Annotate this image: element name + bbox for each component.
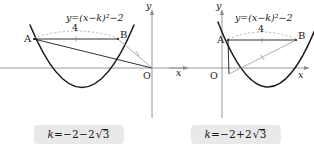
caption-value: −2+2	[220, 128, 252, 140]
parabola-curve	[30, 25, 134, 88]
chord-length-label: 4	[258, 23, 264, 34]
x-axis-arrow-icon	[304, 66, 310, 70]
equation-label: y=(x−k)²−2	[234, 12, 293, 23]
equation-label: y=(x−k)²−2	[65, 12, 124, 23]
segment-a-to-o	[34, 39, 152, 68]
panel-right: A B 4 y=(x−k)²−2 O x y k=−2+2√3	[157, 0, 314, 150]
left-panel-diagram: A B 4 y=(x−k)²−2 O x y	[0, 0, 157, 122]
y-axis-label: y	[215, 0, 222, 11]
caption-radical: √3	[252, 128, 267, 140]
point-a-marker	[227, 39, 229, 41]
caption-equals: =	[54, 128, 63, 140]
point-a-label: A	[23, 33, 32, 44]
chord-length-label: 4	[72, 22, 78, 33]
point-b-marker	[117, 38, 119, 40]
caption-value: −2−2	[63, 128, 95, 140]
segment-a-to-o	[228, 40, 229, 74]
point-b-label: B	[120, 29, 127, 40]
caption-right: k=−2+2√3	[190, 125, 280, 144]
point-b-marker	[295, 39, 297, 41]
point-a-label: A	[216, 34, 225, 45]
radical-bar	[259, 129, 265, 130]
radical-bar	[102, 129, 108, 130]
panel-left: A B 4 y=(x−k)²−2 O x y k=−2−2√3	[0, 0, 157, 150]
caption-left: k=−2−2√3	[33, 125, 123, 144]
origin-label: O	[143, 70, 151, 81]
y-axis-label: y	[145, 0, 152, 11]
caption-equals: =	[211, 128, 220, 140]
caption-radical: √3	[95, 128, 110, 140]
point-a-marker	[33, 38, 35, 40]
x-axis-label: x	[298, 69, 304, 80]
right-panel-diagram: A B 4 y=(x−k)²−2 O x y	[157, 0, 314, 122]
point-b-label: B	[298, 30, 305, 41]
origin-label: O	[210, 70, 218, 81]
figure-stage: · · · · · · · · · · ·	[0, 0, 314, 150]
